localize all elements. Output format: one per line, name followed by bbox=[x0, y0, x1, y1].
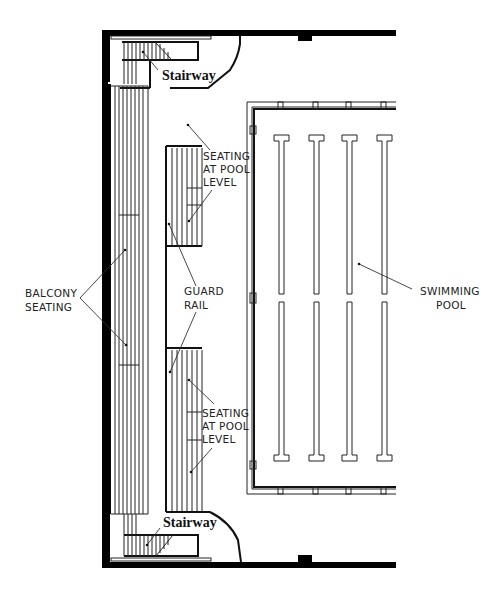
stairway-bottom: Stairway bbox=[106, 512, 241, 562]
seating-pool-level-bottom bbox=[172, 350, 202, 512]
guard-rail-l1: GUARD bbox=[184, 285, 224, 297]
balcony-seating bbox=[111, 86, 148, 514]
seating-bottom-l2: AT POOL bbox=[202, 420, 249, 432]
pool-label-l1: SWIMMING bbox=[420, 285, 480, 297]
floor-plan: Stairway bbox=[0, 0, 501, 595]
pool-label-l2: POOL bbox=[436, 299, 466, 311]
seating-bottom-l1: SEATING bbox=[202, 407, 249, 419]
balcony-l1: BALCONY bbox=[25, 287, 77, 299]
balcony-annotation: BALCONY SEATING bbox=[25, 249, 127, 347]
lane-markers bbox=[274, 135, 392, 461]
seating-top-l1: SEATING bbox=[203, 150, 250, 162]
seating-bottom-l3: LEVEL bbox=[202, 433, 236, 445]
balcony-l2: SEATING bbox=[25, 301, 72, 313]
stairway-top: Stairway bbox=[106, 36, 240, 88]
swimming-pool: SWIMMING POOL bbox=[247, 102, 480, 494]
seating-top-l2: AT POOL bbox=[203, 163, 250, 175]
seating-pool-top-annotation: SEATING AT POOL LEVEL bbox=[187, 124, 251, 223]
seating-pool-level-top bbox=[172, 148, 202, 246]
stairway-top-label: Stairway bbox=[162, 68, 216, 83]
seating-top-l3: LEVEL bbox=[203, 176, 237, 188]
guard-rail-l2: RAIL bbox=[184, 299, 208, 311]
stairway-bottom-label: Stairway bbox=[163, 515, 217, 530]
